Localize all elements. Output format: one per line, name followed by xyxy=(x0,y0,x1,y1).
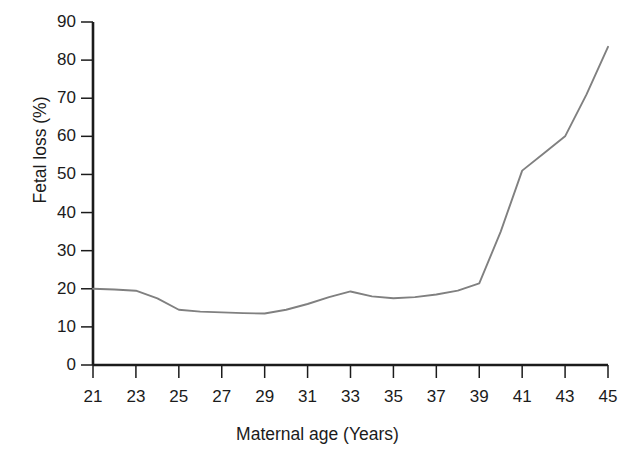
x-tick-label: 33 xyxy=(341,387,360,407)
x-tick-label: 35 xyxy=(384,387,403,407)
y-axis-title: Fetal loss (%) xyxy=(30,0,51,300)
x-tick-label: 23 xyxy=(126,387,145,407)
x-tick-label: 29 xyxy=(255,387,274,407)
x-tick-label: 21 xyxy=(84,387,103,407)
y-tick-label: 10 xyxy=(40,317,76,337)
fetal-loss-line-chart: 0102030405060708090 21232527293133353739… xyxy=(0,0,635,461)
x-tick-label: 43 xyxy=(556,387,575,407)
y-tick-label: 0 xyxy=(40,355,76,375)
x-axis-ticks xyxy=(93,365,608,378)
x-tick-label: 37 xyxy=(427,387,446,407)
x-tick-label: 31 xyxy=(298,387,317,407)
data-series-line xyxy=(93,47,608,314)
x-tick-label: 25 xyxy=(169,387,188,407)
x-axis-title: Maternal age (Years) xyxy=(0,424,635,445)
x-tick-label: 39 xyxy=(470,387,489,407)
x-tick-label: 41 xyxy=(513,387,532,407)
x-tick-label: 45 xyxy=(599,387,618,407)
x-tick-label: 27 xyxy=(212,387,231,407)
y-axis-ticks xyxy=(81,22,93,365)
